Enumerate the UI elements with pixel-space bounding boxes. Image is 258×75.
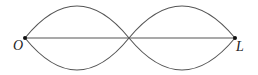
label-O: O	[13, 38, 23, 53]
loop-2-lower	[129, 38, 235, 70]
standing-wave-diagram: O L	[0, 0, 258, 75]
loop-2-upper	[129, 6, 235, 38]
point-O-dot	[23, 36, 27, 40]
loop-1-upper	[25, 6, 129, 38]
loop-1-lower	[25, 38, 129, 70]
label-L: L	[235, 39, 244, 54]
